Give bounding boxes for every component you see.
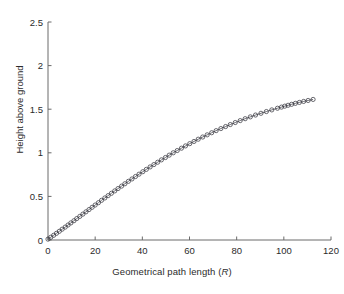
svg-text:2.5: 2.5 [30,17,43,28]
tick-marks-group [48,22,331,240]
x-axis-label: Geometrical path length (R) [0,266,344,277]
chart-plot-area: 02040608010012000.511.522.5 [0,0,344,294]
y-axis-label: Height above ground [14,35,25,185]
svg-text:60: 60 [184,245,195,256]
svg-text:0.5: 0.5 [30,191,43,202]
svg-text:2: 2 [38,60,43,71]
svg-text:1: 1 [38,147,43,158]
svg-text:1.5: 1.5 [30,104,43,115]
svg-text:20: 20 [90,245,101,256]
svg-text:0: 0 [45,245,50,256]
axes-group [48,22,331,240]
data-series-group [46,97,315,241]
svg-text:120: 120 [323,245,339,256]
svg-text:100: 100 [276,245,292,256]
svg-text:0: 0 [38,235,43,246]
svg-text:40: 40 [137,245,148,256]
svg-text:80: 80 [231,245,242,256]
x-axis-label-suffix: ) [228,266,231,277]
figure-canvas: 02040608010012000.511.522.5 Geometrical … [0,0,344,294]
x-axis-label-prefix: Geometrical path length ( [112,266,221,277]
